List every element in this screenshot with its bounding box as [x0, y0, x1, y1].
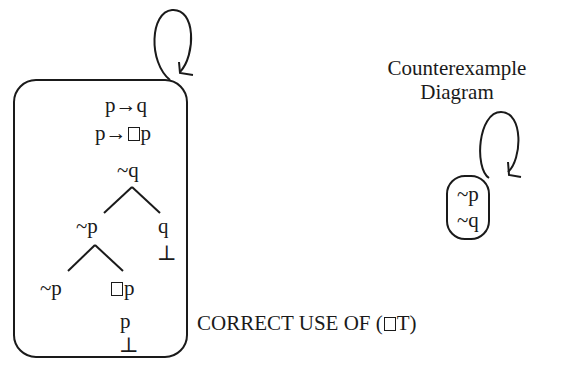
- title-line: Diagram: [372, 80, 542, 104]
- closure-mark-right: ⊥: [157, 243, 177, 264]
- world-formula-not-p: ~p: [457, 184, 479, 205]
- formula-text: p: [124, 276, 135, 300]
- box-operator-icon: [128, 127, 140, 141]
- branch-line: [104, 187, 132, 213]
- counterexample-title: Counterexample Diagram: [372, 56, 542, 104]
- title-line: Counterexample: [372, 56, 542, 80]
- formula-p-implies-q: p→q: [105, 95, 147, 116]
- box-operator-icon: [384, 317, 396, 331]
- branch-line: [95, 245, 123, 271]
- world-formula-not-q: ~q: [457, 210, 479, 231]
- caption-text: CORRECT USE OF (: [197, 311, 383, 335]
- formula-not-p-leaf: ~p: [40, 278, 62, 299]
- closure-mark-left: ⊥: [119, 335, 139, 356]
- caption-correct-use: CORRECT USE OF (T): [197, 313, 417, 334]
- formula-p-implies-box-p: p→p: [95, 123, 151, 144]
- formula-not-q: ~q: [117, 160, 139, 181]
- formula-text: p: [141, 121, 152, 145]
- reflexive-loop-arrow-counterexample: [480, 112, 518, 178]
- branch-line: [68, 245, 95, 271]
- reflexive-loop-arrow-main: [154, 10, 191, 80]
- formula-not-p-branch: ~p: [76, 216, 98, 237]
- caption-text: T): [397, 311, 417, 335]
- box-operator-icon: [111, 282, 123, 296]
- branch-line: [132, 187, 160, 213]
- formula-p-derived: p: [120, 311, 131, 332]
- formula-q-branch: q: [158, 216, 169, 237]
- formula-text: p→: [95, 121, 127, 145]
- formula-box-p: p: [110, 278, 135, 299]
